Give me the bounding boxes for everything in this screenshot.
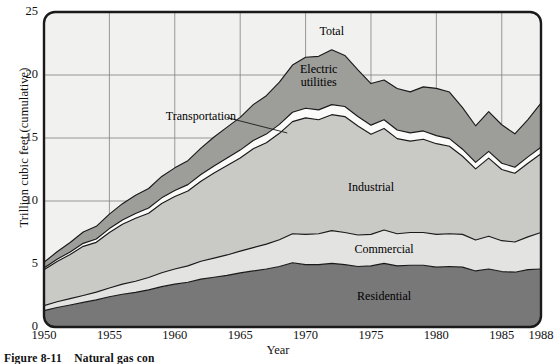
series-label-commercial: Commercial bbox=[354, 243, 413, 257]
x-tick-1950: 1950 bbox=[22, 329, 66, 342]
series-label-total: Total bbox=[319, 25, 344, 39]
series-label-transportation: Transportation bbox=[166, 110, 236, 124]
x-tick-1980: 1980 bbox=[414, 329, 458, 342]
series-label-industrial: Industrial bbox=[348, 181, 394, 195]
x-tick-1975: 1975 bbox=[349, 329, 393, 342]
x-tick-1960: 1960 bbox=[153, 329, 197, 342]
y-tick-10: 10 bbox=[6, 194, 38, 206]
y-tick-20: 20 bbox=[6, 68, 38, 80]
x-tick-1970: 1970 bbox=[284, 329, 328, 342]
figure-caption-text: Natural gas con bbox=[74, 352, 154, 364]
x-tick-1955: 1955 bbox=[87, 329, 131, 342]
x-tick-1985: 1985 bbox=[480, 329, 524, 342]
y-tick-15: 15 bbox=[6, 131, 38, 143]
figure-caption: Figure 8-11 Natural gas con bbox=[4, 352, 155, 364]
series-label-electric-utilities: Electricutilities bbox=[300, 63, 337, 90]
y-tick-5: 5 bbox=[6, 257, 38, 269]
figure-caption-number: Figure 8-11 bbox=[4, 352, 62, 364]
y-tick-25: 25 bbox=[6, 5, 38, 17]
series-label-residential: Residential bbox=[357, 290, 411, 304]
y-axis-title: Trillion cubic feet (cumulative) bbox=[17, 28, 32, 268]
x-tick-1988: 1988 bbox=[519, 329, 556, 342]
x-tick-1965: 1965 bbox=[218, 329, 262, 342]
